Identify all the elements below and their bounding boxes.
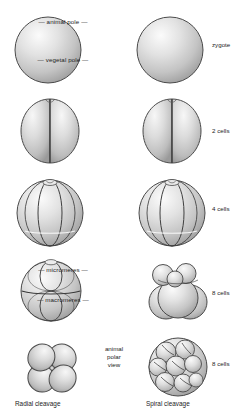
embryo-spiral-8cell xyxy=(146,258,210,322)
embryo-spiral-4cell xyxy=(134,176,210,248)
caption-radial-cleavage: Radial cleavage xyxy=(15,400,60,407)
label-micromeres: — micromeres — xyxy=(0,267,126,274)
label-macromeres: — macromeres — xyxy=(0,297,126,304)
embryo-radial-polar-view xyxy=(20,338,84,398)
polar-view-line-2: polar xyxy=(93,353,135,361)
stage-label-8-cells-lateral: 8 cells xyxy=(212,289,230,296)
embryo-spiral-2cell xyxy=(136,96,208,166)
polar-view-line-1: animal xyxy=(93,345,135,353)
embryo-spiral-zygote xyxy=(134,14,206,86)
embryo-radial-2cell xyxy=(14,96,86,166)
embryo-spiral-polar-view xyxy=(146,336,210,398)
stage-label-8-cells-polar: 8 cells xyxy=(212,360,230,367)
stage-label-2-cells: 2 cells xyxy=(212,127,230,134)
stage-label-4-cells: 4 cells xyxy=(212,205,230,212)
cleavage-comparison-figure: — animal pole — — vegetal pole — zygote … xyxy=(0,0,252,420)
label-animal-polar-view: animal polar view xyxy=(93,345,135,369)
stage-label-zygote: zygote xyxy=(212,41,230,48)
label-animal-pole: — animal pole — xyxy=(0,19,126,26)
polar-view-line-3: view xyxy=(93,361,135,369)
embryo-radial-4cell xyxy=(12,176,88,248)
caption-spiral-cleavage: Spiral cleavage xyxy=(146,400,190,407)
label-vegetal-pole: — vegetal pole — xyxy=(0,57,126,64)
